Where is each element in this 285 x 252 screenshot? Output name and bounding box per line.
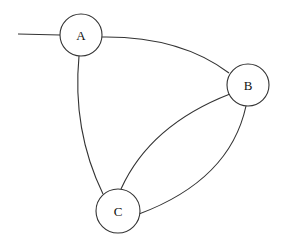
edge-external-a [18,34,60,35]
node-a: A [60,14,102,56]
node-a-label: A [76,28,86,43]
edge-a-c [78,56,103,194]
node-b-label: B [244,78,253,93]
node-c-label: C [114,204,123,219]
edge-a-b [102,37,229,73]
node-b: B [227,64,269,106]
edge-c-b-lower [139,106,246,214]
graph-diagram: A B C [0,0,285,252]
edge-c-b-upper [121,94,230,189]
node-c: C [96,189,140,233]
